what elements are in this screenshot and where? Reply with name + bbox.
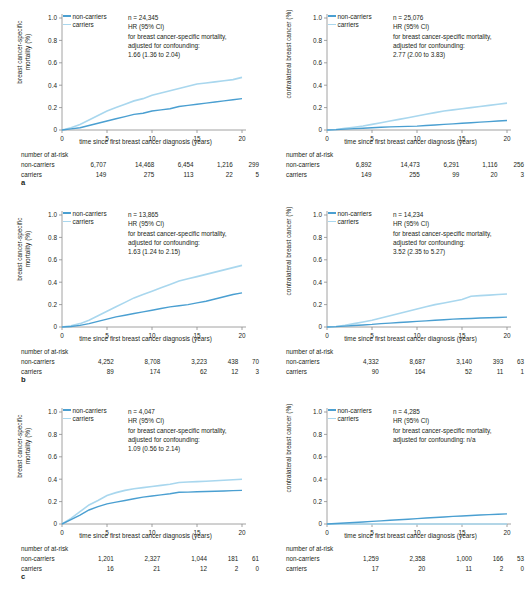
- svg-text:0.2: 0.2: [48, 498, 57, 505]
- statistics-annotation: n = 4,047 HR (95% CI) for breast cancer-…: [128, 407, 227, 453]
- legend-label-carriers: carriers: [73, 415, 94, 423]
- at-risk-title: number of at-risk: [286, 150, 333, 160]
- x-axis-label: time since first breast cancer diagnosis…: [38, 532, 253, 539]
- statistics-annotation: n = 25,076 HR (95% CI) for breast cancer…: [393, 13, 492, 59]
- at-risk-row-label-non-carriers: non-carriers: [286, 554, 332, 564]
- plot-area: contralateral breast cancer (%) 00.20.40…: [265, 0, 530, 152]
- at-risk-carriers-value: 149: [332, 170, 372, 180]
- table-row: non-carriers 6,89214,4736,2911,116256: [286, 160, 524, 170]
- at-risk-non-carriers-value: 299: [233, 160, 259, 170]
- legend-item-non-carriers: non-carriers: [63, 407, 107, 415]
- at-risk-non-carriers-value: 53: [503, 554, 524, 564]
- at-risk-non-carriers-value: 256: [498, 160, 524, 170]
- statistics-annotation: n = 4,285 HR (95% CI) for breast cancer-…: [393, 407, 492, 444]
- at-risk-non-carriers-value: 63: [503, 357, 524, 367]
- legend: non-carriers carriers: [63, 210, 107, 226]
- svg-text:0.4: 0.4: [48, 279, 57, 286]
- at-risk-carriers-value: 12: [160, 564, 207, 574]
- svg-text:0.6: 0.6: [48, 256, 57, 263]
- outcome-label: for breast cancer-specific mortality,: [128, 32, 227, 41]
- svg-text:0.8: 0.8: [313, 234, 322, 241]
- hr-label: HR (95% CI): [128, 219, 227, 228]
- svg-text:0.2: 0.2: [313, 104, 322, 111]
- svg-text:1.0: 1.0: [313, 14, 322, 21]
- legend-item-non-carriers: non-carriers: [63, 210, 107, 218]
- svg-text:0.8: 0.8: [313, 431, 322, 438]
- panel-letter-a: a: [21, 178, 25, 187]
- at-risk-non-carriers-value: 1,044: [160, 554, 207, 564]
- at-risk-non-carriers-value: 6,707: [67, 160, 106, 170]
- legend-item-non-carriers: non-carriers: [328, 13, 372, 21]
- hr-label: HR (95% CI): [393, 416, 492, 425]
- table-row: carriers 17201120: [286, 564, 524, 574]
- x-axis-label: time since first breast cancer diagnosis…: [303, 335, 518, 342]
- adjustment-label: adjusted for confounding:: [128, 435, 227, 444]
- legend-item-carriers: carriers: [63, 415, 107, 423]
- panel-b-right: contralateral breast cancer (%) 00.20.40…: [265, 197, 530, 394]
- panel-row-b: breast cancer-specificmortality (%) 00.2…: [0, 197, 530, 394]
- at-risk-title: number of at-risk: [21, 347, 68, 357]
- legend-item-non-carriers: non-carriers: [328, 407, 372, 415]
- legend: non-carriers carriers: [328, 13, 372, 29]
- at-risk-row-label-non-carriers: non-carriers: [21, 160, 67, 170]
- at-risk-non-carriers-value: 14,473: [372, 160, 420, 170]
- svg-text:1.0: 1.0: [48, 14, 57, 21]
- at-risk-non-carriers-value: 181: [207, 554, 238, 564]
- at-risk-non-carriers-value: 1,201: [67, 554, 114, 564]
- svg-text:0.2: 0.2: [48, 301, 57, 308]
- curve-non-carriers: [62, 293, 242, 327]
- at-risk-carriers-value: 3: [238, 367, 259, 377]
- svg-text:0.6: 0.6: [48, 453, 57, 460]
- legend-swatch-non-carriers: [328, 15, 336, 17]
- legend-item-non-carriers: non-carriers: [63, 13, 107, 21]
- at-risk-carriers-value: 11: [425, 564, 472, 574]
- table-row: non-carriers 4,2528,7083,22343870: [21, 357, 259, 367]
- at-risk-non-carriers-value: 6,454: [154, 160, 193, 170]
- legend-swatch-non-carriers: [63, 15, 71, 17]
- plot-area: contralateral breast cancer (%) 00.20.40…: [265, 394, 530, 546]
- legend-label-non-carriers: non-carriers: [73, 407, 107, 415]
- adjustment-label: adjusted for confounding:: [128, 238, 227, 247]
- outcome-label: for breast cancer-specific mortality,: [393, 229, 492, 238]
- at-risk-row-label-carriers: carriers: [286, 170, 332, 180]
- at-risk-table: non-carriers 6,70714,4686,4541,216299 ca…: [21, 160, 259, 179]
- adjustment-label: adjusted for confounding:: [128, 41, 227, 50]
- svg-text:1.0: 1.0: [313, 211, 322, 218]
- at-risk-non-carriers-value: 8,687: [379, 357, 426, 367]
- at-risk-carriers-value: 20: [379, 564, 426, 574]
- legend-item-carriers: carriers: [63, 21, 107, 29]
- sample-size: n = 14,234: [393, 210, 492, 219]
- x-axis-label: time since first breast cancer diagnosis…: [303, 532, 518, 539]
- at-risk-row-label-carriers: carriers: [21, 564, 67, 574]
- svg-text:0.8: 0.8: [48, 431, 57, 438]
- curve-non-carriers: [327, 317, 507, 327]
- legend-swatch-carriers: [328, 24, 336, 26]
- at-risk-carriers-value: 174: [114, 367, 161, 377]
- table-row: carriers 16211220: [21, 564, 259, 574]
- at-risk-carriers-value: 113: [154, 170, 193, 180]
- legend-label-carriers: carriers: [338, 218, 359, 226]
- svg-text:0.6: 0.6: [313, 256, 322, 263]
- svg-text:0.4: 0.4: [313, 82, 322, 89]
- legend-swatch-carriers: [328, 221, 336, 223]
- legend-label-non-carriers: non-carriers: [73, 210, 107, 218]
- legend: non-carriers carriers: [328, 210, 372, 226]
- at-risk-carriers-value: 20: [459, 170, 497, 180]
- legend-swatch-non-carriers: [63, 409, 71, 411]
- at-risk-carriers-value: 16: [67, 564, 114, 574]
- hr-value: 2.77 (2.00 to 3.83): [393, 50, 492, 59]
- hr-value: 1.66 (1.36 to 2.04): [128, 50, 227, 59]
- svg-text:0.6: 0.6: [313, 59, 322, 66]
- at-risk-table: non-carriers 1,2592,3581,00016653 carrie…: [286, 554, 524, 573]
- svg-text:0.8: 0.8: [48, 37, 57, 44]
- legend-label-non-carriers: non-carriers: [338, 13, 372, 21]
- at-risk-row-label-carriers: carriers: [286, 564, 332, 574]
- legend-label-carriers: carriers: [338, 21, 359, 29]
- at-risk-carriers-value: 17: [332, 564, 379, 574]
- at-risk-non-carriers-value: 3,140: [425, 357, 472, 367]
- legend-label-carriers: carriers: [73, 21, 94, 29]
- x-axis-label: time since first breast cancer diagnosis…: [38, 335, 253, 342]
- panel-row-c: breast cancer-specificmortality (%) 00.2…: [0, 394, 530, 591]
- statistics-annotation: n = 13,865 HR (95% CI) for breast cancer…: [128, 210, 227, 256]
- outcome-label: for breast cancer-specific mortality,: [128, 229, 227, 238]
